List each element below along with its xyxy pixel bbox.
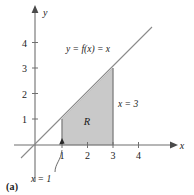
coordinate-plot: 1 2 3 4 1 2 3 4 y x y = f(x) = x x = 3 R…: [0, 0, 194, 195]
function-label: y = f(x) = x: [65, 44, 111, 55]
y-axis-arrowhead: [32, 5, 39, 13]
x-tick-label-2: 2: [85, 150, 90, 161]
y-tick-label-2: 2: [22, 89, 27, 100]
panel-label: (a): [6, 181, 18, 192]
shaded-region-R: [62, 68, 113, 145]
y-tick-label-3: 3: [22, 63, 27, 74]
x-tick-label-4: 4: [136, 150, 141, 161]
left-bound-leader-line: [55, 150, 62, 172]
x-tick-label-3: 3: [111, 150, 116, 161]
region-label-R: R: [83, 116, 91, 127]
x-axis-label: x: [179, 140, 185, 151]
y-tick-label-1: 1: [22, 114, 27, 125]
right-bound-label: x = 3: [117, 99, 138, 109]
y-axis-label: y: [42, 7, 48, 18]
figure-panel: 1 2 3 4 1 2 3 4 y x y = f(x) = x x = 3 R…: [0, 0, 194, 195]
x-axis-arrowhead: [170, 142, 178, 149]
y-tick-label-4: 4: [22, 38, 27, 49]
left-bound-label: x = 1: [30, 174, 51, 184]
